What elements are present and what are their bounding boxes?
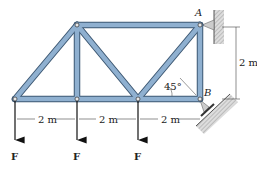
wall-support-a: [202, 10, 224, 44]
load-label-3: F: [134, 152, 141, 162]
angle-label: 45°: [164, 82, 182, 92]
truss-diagram: [0, 0, 257, 173]
span-label-1: 2 m: [38, 115, 57, 125]
load-arrows: [15, 101, 138, 140]
span-label-3: 2 m: [161, 115, 180, 125]
span-label-2: 2 m: [99, 115, 118, 125]
load-label-1: F: [11, 152, 18, 162]
label-b: B: [204, 88, 211, 98]
load-label-2: F: [73, 152, 80, 162]
label-a: A: [195, 8, 202, 18]
height-label: 2 m: [239, 58, 257, 68]
height-dimension: [222, 27, 240, 99]
